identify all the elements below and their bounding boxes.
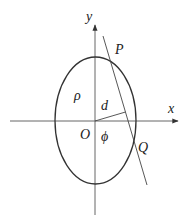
distance-label: d xyxy=(101,98,109,113)
distance-segment-d xyxy=(95,112,126,121)
point-p-label: P xyxy=(114,42,124,57)
angle-label: ϕ xyxy=(101,129,108,144)
point-q-label: Q xyxy=(138,140,148,155)
y-axis-label: y xyxy=(84,9,93,24)
ellipse-diagram: y x P Q O ρ d ϕ xyxy=(0,0,187,219)
density-label: ρ xyxy=(73,88,81,103)
x-axis-label: x xyxy=(167,101,175,116)
origin-label: O xyxy=(80,127,90,142)
secant-line-pq xyxy=(103,36,147,185)
